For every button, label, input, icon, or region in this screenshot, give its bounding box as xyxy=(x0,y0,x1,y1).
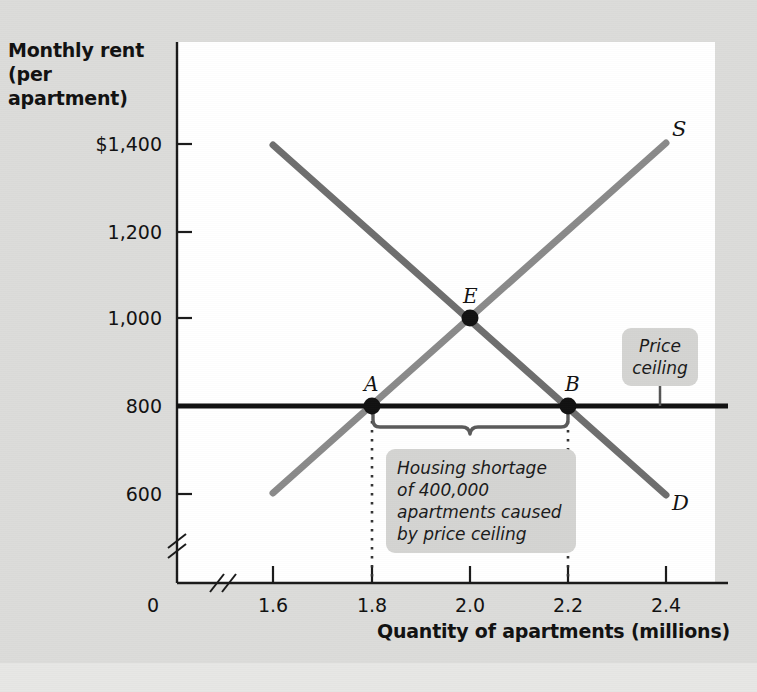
housing-shortage-line1: Housing shortage xyxy=(397,457,565,479)
supply-curve-label: S xyxy=(672,117,686,141)
point-e-dot xyxy=(462,310,479,327)
price-ceiling-callout-line1: Price xyxy=(630,335,690,357)
x-tick-label-2-4: 2.4 xyxy=(626,594,706,616)
x-tick-marks xyxy=(273,566,666,583)
shortage-brace xyxy=(373,410,568,434)
point-b-label: B xyxy=(565,372,580,396)
demand-curve-label: D xyxy=(672,491,689,515)
y-axis-title-line2: (per apartment) xyxy=(8,62,173,110)
figure-container: Monthly rent (per apartment) Quantity of… xyxy=(0,0,757,692)
x-tick-label-1-8: 1.8 xyxy=(332,594,412,616)
point-a-dot xyxy=(364,398,381,415)
x-axis-title: Quantity of apartments (millions) xyxy=(300,620,730,642)
housing-shortage-line2: of 400,000 xyxy=(397,479,565,501)
y-tick-marks xyxy=(177,144,192,494)
price-ceiling-callout: Price ceiling xyxy=(622,328,698,386)
x-tick-label-0: 0 xyxy=(113,594,193,616)
y-tick-label-1000: 1,000 xyxy=(42,307,162,329)
point-e-label: E xyxy=(463,284,478,308)
y-axis-title: Monthly rent (per apartment) xyxy=(8,38,173,110)
housing-shortage-callout: Housing shortage of 400,000 apartments c… xyxy=(386,449,576,553)
x-tick-label-2-2: 2.2 xyxy=(528,594,608,616)
housing-shortage-line3: apartments caused xyxy=(397,501,565,523)
x-tick-label-1-6: 1.6 xyxy=(233,594,313,616)
y-tick-label-600: 600 xyxy=(42,483,162,505)
housing-shortage-line4: by price ceiling xyxy=(397,523,565,545)
y-tick-label-1200: 1,200 xyxy=(42,221,162,243)
point-b-dot xyxy=(560,398,577,415)
y-tick-label-800: 800 xyxy=(42,395,162,417)
x-tick-label-2-0: 2.0 xyxy=(430,594,510,616)
y-axis-title-line1: Monthly rent xyxy=(8,38,173,62)
price-ceiling-callout-line2: ceiling xyxy=(630,357,690,379)
point-a-label: A xyxy=(364,372,378,396)
y-tick-label-1400: $1,400 xyxy=(42,133,162,155)
